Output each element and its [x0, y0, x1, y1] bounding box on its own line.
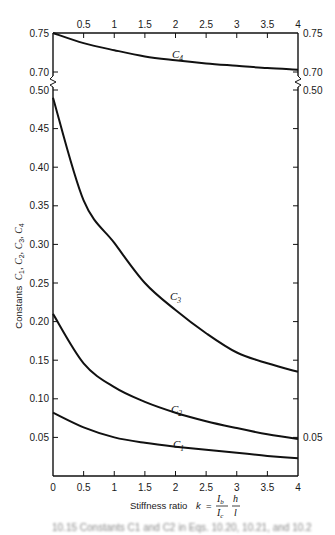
- svg-text:0.45: 0.45: [30, 123, 50, 134]
- chart: 00.511.522.533.540.511.522.533.540.750.7…: [0, 0, 335, 535]
- label-c1: C1: [173, 438, 184, 453]
- svg-text:0.40: 0.40: [30, 162, 50, 173]
- x-axis-title: Stiffness ratio k = Ib Ic h l: [130, 493, 240, 520]
- svg-text:0.20: 0.20: [30, 316, 50, 327]
- svg-text:Constants C1, C2,: Constants C1, C2, C3, C4: [13, 223, 25, 328]
- svg-text:3: 3: [234, 482, 240, 493]
- svg-text:2.5: 2.5: [199, 482, 213, 493]
- svg-text:Ic: Ic: [216, 507, 224, 520]
- svg-text:1.5: 1.5: [138, 19, 152, 30]
- svg-text:1: 1: [111, 482, 117, 493]
- figure-caption: 10.15 Constants C1 and C2 in Eqs. 10.20,…: [0, 522, 335, 535]
- svg-text:0.25: 0.25: [30, 278, 50, 289]
- y-axis-title: Constants C1, C2, C3, C4: [13, 223, 25, 328]
- svg-text:1: 1: [111, 19, 117, 30]
- label-c2: C2: [171, 403, 182, 418]
- svg-text:0.10: 0.10: [30, 393, 50, 404]
- svg-text:0.70: 0.70: [30, 67, 50, 78]
- svg-text:2: 2: [173, 19, 179, 30]
- svg-text:4: 4: [295, 19, 301, 30]
- svg-text:Stiffness ratio: Stiffness ratio: [130, 500, 187, 511]
- svg-text:l: l: [234, 507, 237, 518]
- curve-labels: C4C3C2C1: [170, 48, 184, 453]
- svg-text:Ib: Ib: [216, 493, 224, 506]
- svg-text:0.70: 0.70: [303, 67, 323, 78]
- svg-text:3: 3: [234, 19, 240, 30]
- svg-text:2.5: 2.5: [199, 19, 213, 30]
- svg-text:2: 2: [173, 482, 179, 493]
- svg-text:=: =: [206, 500, 212, 511]
- svg-text:0.15: 0.15: [30, 355, 50, 366]
- svg-text:0.75: 0.75: [30, 28, 50, 39]
- svg-text:0.35: 0.35: [30, 200, 50, 211]
- svg-text:0.05: 0.05: [303, 432, 323, 443]
- svg-text:0.05: 0.05: [30, 432, 50, 443]
- curves: [53, 33, 298, 458]
- svg-text:0.50: 0.50: [30, 85, 50, 96]
- curve-c2: [53, 314, 298, 439]
- svg-text:h: h: [233, 493, 238, 504]
- svg-text:0.75: 0.75: [303, 28, 323, 39]
- curve-c3: [53, 98, 298, 372]
- label-c3: C3: [170, 290, 181, 305]
- svg-text:1.5: 1.5: [138, 482, 152, 493]
- curve-c1: [53, 413, 298, 459]
- svg-text:3.5: 3.5: [260, 19, 274, 30]
- svg-text:3.5: 3.5: [260, 482, 274, 493]
- svg-text:0: 0: [50, 482, 56, 493]
- svg-text:k: k: [196, 500, 202, 511]
- svg-text:4: 4: [295, 482, 301, 493]
- svg-text:0.30: 0.30: [30, 239, 50, 250]
- svg-text:0.5: 0.5: [77, 19, 91, 30]
- svg-text:0.5: 0.5: [77, 482, 91, 493]
- svg-text:0.50: 0.50: [303, 85, 323, 96]
